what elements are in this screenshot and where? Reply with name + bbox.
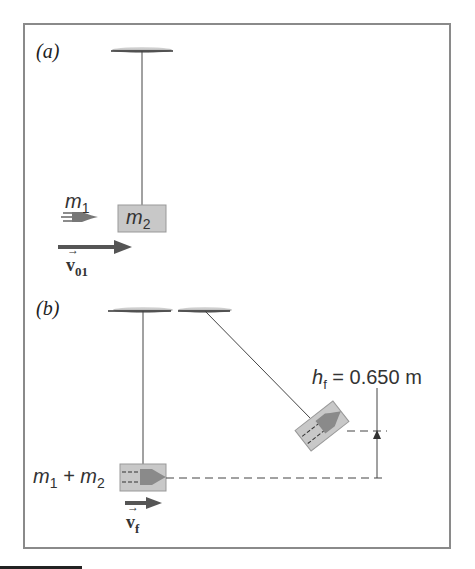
- combined-mass-label: m1 + m2: [33, 465, 105, 491]
- height-dimension-arrow: [373, 388, 381, 478]
- combined-block-swung: [295, 401, 349, 451]
- combined-block-rest: [120, 464, 166, 491]
- ceiling-support-b-left: [108, 307, 173, 313]
- mass-label-m1: m1: [65, 190, 89, 216]
- mass-label-m2: m2: [126, 206, 150, 232]
- height-label: hf = 0.650 m: [312, 366, 422, 392]
- velocity-label-v01: →v01: [66, 255, 88, 280]
- pendulum-string-b-swung: [205, 311, 312, 420]
- velocity-label-vf: →vf: [126, 512, 139, 537]
- ceiling-support-b-right: [178, 307, 232, 313]
